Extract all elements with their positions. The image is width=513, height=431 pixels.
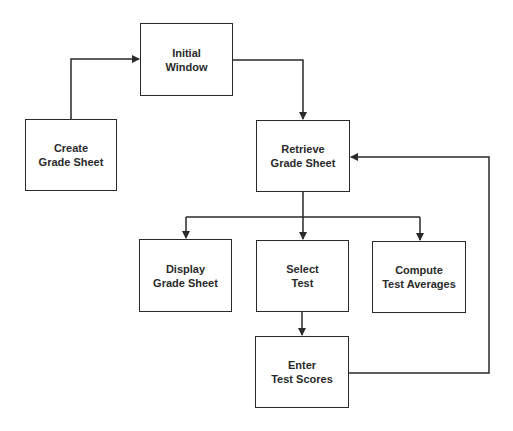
node-select-test: Select Test xyxy=(256,240,349,312)
node-create-grade-sheet: Create Grade Sheet xyxy=(25,119,117,191)
node-retrieve-grade-sheet: Retrieve Grade Sheet xyxy=(256,120,350,192)
node-label: Test xyxy=(292,276,314,290)
node-display-grade-sheet: Display Grade Sheet xyxy=(139,239,232,312)
node-label: Retrieve xyxy=(281,142,324,156)
edge-initial-create xyxy=(71,59,139,118)
node-label: Create xyxy=(54,141,88,155)
node-label: Test Scores xyxy=(271,372,333,386)
node-label: Initial xyxy=(172,46,201,60)
node-label: Display xyxy=(166,262,205,276)
node-label: Select xyxy=(286,262,318,276)
node-label: Window xyxy=(165,60,207,74)
node-label: Grade Sheet xyxy=(39,155,104,169)
edge-initial-retrieve xyxy=(233,60,303,119)
node-label: Enter xyxy=(288,358,316,372)
node-compute-test-averages: Compute Test Averages xyxy=(372,241,466,313)
node-label: Compute xyxy=(395,263,443,277)
node-initial-window: Initial Window xyxy=(140,23,233,96)
node-label: Test Averages xyxy=(382,277,456,291)
node-enter-test-scores: Enter Test Scores xyxy=(255,336,349,408)
node-label: Grade Sheet xyxy=(153,276,218,290)
node-label: Grade Sheet xyxy=(271,156,336,170)
